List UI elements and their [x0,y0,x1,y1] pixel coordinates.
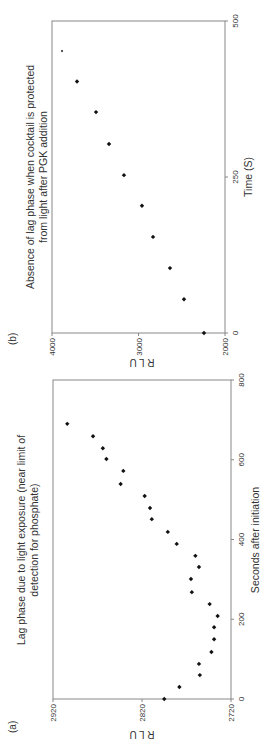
data-point-marker [189,577,193,581]
panel-a-label: (a) [7,721,18,733]
data-point-marker [91,434,95,438]
y-tick-label: 2920 [49,703,58,721]
x-tick-label: 0 [237,696,246,701]
data-point-marker [148,506,152,510]
panel-a-x-axis-label: Seconds after initiation [249,487,261,593]
data-point-marker [151,235,155,239]
panel-a-scatter-chart: (a) Lag phase due to light exposure (nea… [7,373,261,740]
panel-b-x-axis-label: Time (S) [242,157,254,197]
x-tick-label: 400 [237,532,246,546]
data-point-marker [140,204,144,208]
y-tick-label: 2820 [138,703,147,721]
data-point-marker [75,79,79,83]
data-point-marker [177,685,181,689]
data-point-marker [121,469,125,473]
data-point-marker [168,266,172,270]
y-tick-label: 3000 [135,337,144,355]
x-tick-label: 250 [231,170,240,184]
data-point-marker [212,637,216,641]
data-point-marker [197,662,201,666]
data-point-marker [104,457,108,461]
panel-b-plot-area: 0250500200030004000 [48,14,240,356]
x-tick-label: 0 [231,330,240,335]
data-point-marker [142,494,146,498]
panel-b-title-line2: from light after PGK addition [37,111,49,243]
panel-a-plot-area: 0200400600800272028202920 [49,373,246,722]
data-point-marker [212,625,216,629]
data-point-marker [193,554,197,558]
x-tick-label: 800 [237,373,246,387]
x-tick-label: 500 [231,14,240,28]
data-point-marker [202,331,206,335]
plot-frame [52,21,225,333]
panel-b-label: (b) [7,333,18,345]
data-point-marker [198,673,202,677]
data-point-marker [175,542,179,546]
data-point-marker [118,482,122,486]
panel-b-scatter-chart: (b) Absence of lag phase when cocktail i… [7,14,254,368]
panel-b-title-line1: Absence of lag phase when cocktail is pr… [24,65,36,289]
data-point-marker [190,590,194,594]
panel-a-y-axis-label: R L U [129,729,154,740]
data-point-marker [94,110,98,114]
y-tick-label: 4000 [48,337,57,355]
data-point-marker [207,602,211,606]
data-point-marker [61,50,63,52]
panel-a-title-line1: Lag phase due to light exposure (near li… [15,435,27,645]
y-tick-label: 2720 [227,703,236,721]
data-point-marker [101,446,105,450]
data-point-marker [182,297,186,301]
data-point-marker [162,697,166,701]
panel-a-title-line2: detection for phosphate) [28,483,40,596]
data-point-marker [150,517,154,521]
x-tick-label: 200 [237,612,246,626]
chart-svg: (a) Lag phase due to light exposure (nea… [0,0,268,747]
panel-b-y-axis-label: R L U [129,357,154,368]
data-point-marker [166,530,170,534]
x-tick-label: 600 [237,453,246,467]
data-point-marker [209,650,213,654]
data-point-marker [197,565,201,569]
data-point-marker [65,422,69,426]
data-point-marker [122,173,126,177]
figure: (a) Lag phase due to light exposure (nea… [0,0,268,747]
data-point-marker [107,142,111,146]
y-tick-label: 2000 [221,337,230,355]
plot-frame [53,380,231,699]
data-point-marker [215,614,219,618]
